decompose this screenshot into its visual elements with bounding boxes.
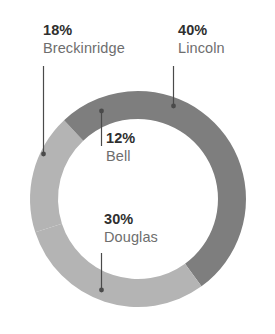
leader-dot-bell [99, 109, 104, 114]
leader-dot-breckinridge [41, 152, 46, 157]
donut-chart-page: 18% Breckinridge 40% Lincoln 12% Bell 30… [0, 0, 275, 334]
donut-slice-breckinridge[interactable] [30, 120, 83, 232]
slice-percent-douglas: 30% [104, 211, 158, 228]
slice-name-douglas: Douglas [104, 228, 158, 246]
donut-chart-figure [0, 0, 275, 334]
slice-name-breckinridge: Breckinridge [43, 39, 125, 57]
slice-percent-breckinridge: 18% [43, 22, 125, 39]
slice-name-lincoln: Lincoln [178, 39, 225, 57]
slice-name-bell: Bell [106, 147, 135, 165]
slice-label-bell: 12% Bell [106, 130, 135, 165]
leader-dot-lincoln [171, 104, 176, 109]
donut-slice-lincoln[interactable] [138, 91, 246, 286]
donut-ring [30, 91, 246, 307]
slice-percent-lincoln: 40% [178, 22, 225, 39]
slice-label-douglas: 30% Douglas [104, 211, 158, 246]
leader-dot-douglas [99, 288, 104, 293]
slice-label-lincoln: 40% Lincoln [178, 22, 225, 57]
slice-percent-bell: 12% [106, 130, 135, 147]
slice-label-breckinridge: 18% Breckinridge [43, 22, 125, 57]
